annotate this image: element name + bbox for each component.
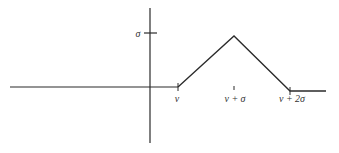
y-tick-label: σ — [136, 28, 142, 39]
x-tick-label-nu-plus-sigma: ν + σ — [224, 93, 246, 104]
function-curve — [178, 36, 326, 91]
x-tick-label-nu-plus-2sigma: ν + 2σ — [279, 93, 306, 104]
x-tick-label-nu: ν — [175, 93, 180, 104]
triangle-function-plot: σ ν ν + σ ν + 2σ — [0, 0, 339, 153]
